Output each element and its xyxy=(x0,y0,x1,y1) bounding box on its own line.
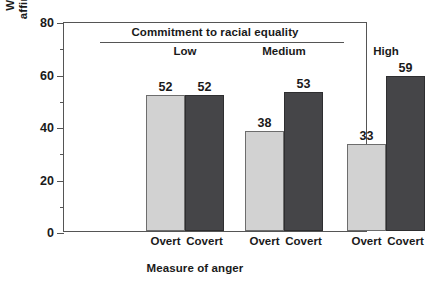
y-axis-title-line-1: Whites angry over xyxy=(4,0,18,11)
group-header-title: Commitment to racial equality xyxy=(64,26,366,38)
bar-category-label: Overt xyxy=(150,235,180,247)
bar-value-label: 33 xyxy=(360,129,374,143)
y-axis-minor-tick-70 xyxy=(60,49,65,50)
bar-medium-covert[interactable]: 53Covert xyxy=(284,92,323,231)
bar-value-label: 52 xyxy=(198,80,212,94)
y-axis-tick-label-20: 20 xyxy=(40,174,54,188)
y-axis-minor-tick-30 xyxy=(60,154,65,155)
bar-low-overt[interactable]: 52Overt xyxy=(146,95,185,232)
y-axis-tick-label-40: 40 xyxy=(40,121,54,135)
group-header-rule xyxy=(100,42,344,43)
bar-value-label: 53 xyxy=(297,77,311,91)
y-axis-tick-80 xyxy=(57,23,64,24)
bar-medium-overt[interactable]: 38Overt xyxy=(245,131,284,231)
bar-high-overt[interactable]: 33Overt xyxy=(347,144,386,231)
bar-category-label: Covert xyxy=(387,235,423,247)
y-axis-title-line-2: affirmative action (%) xyxy=(17,0,31,19)
bar-value-label: 59 xyxy=(399,61,413,75)
plot-inner: Commitment to racial equality 020406080L… xyxy=(64,23,366,231)
y-axis-title: Whites angry over affirmative action (%) xyxy=(2,0,32,50)
bar-category-label: Covert xyxy=(285,235,321,247)
y-axis-minor-tick-50 xyxy=(60,102,65,103)
y-axis-minor-tick-10 xyxy=(60,207,65,208)
bar-value-label: 52 xyxy=(159,80,173,94)
y-axis-tick-label-60: 60 xyxy=(40,69,54,83)
group-label-medium: Medium xyxy=(262,45,305,57)
bar-low-covert[interactable]: 52Covert xyxy=(185,95,224,232)
y-axis-tick-label-80: 80 xyxy=(40,16,54,30)
bar-category-label: Overt xyxy=(351,235,381,247)
bar-category-label: Covert xyxy=(186,235,222,247)
x-axis-title: Measure of anger xyxy=(0,262,390,274)
bar-value-label: 38 xyxy=(258,116,272,130)
y-axis-tick-0 xyxy=(57,233,64,234)
plot-area: Commitment to racial equality 020406080L… xyxy=(63,22,367,232)
y-axis-tick-20 xyxy=(57,181,64,182)
y-axis-tick-60 xyxy=(57,76,64,77)
group-label-high: High xyxy=(373,45,399,57)
bar-category-label: Overt xyxy=(249,235,279,247)
bar-high-covert[interactable]: 59Covert xyxy=(386,76,425,231)
y-axis-tick-40 xyxy=(57,128,64,129)
y-axis-tick-label-0: 0 xyxy=(47,226,54,240)
group-label-low: Low xyxy=(174,45,197,57)
